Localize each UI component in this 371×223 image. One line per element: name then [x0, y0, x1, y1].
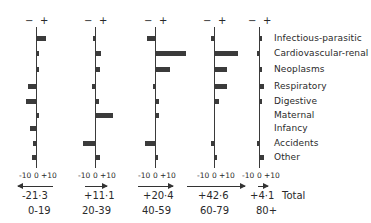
bar-40-59-1	[156, 51, 186, 56]
tick-label-pos10: +10	[100, 172, 116, 180]
bar-20-39-3	[92, 84, 95, 89]
bar-0-19-5	[37, 113, 39, 118]
bar-60-79-2	[215, 67, 227, 72]
bar-20-39-0	[93, 36, 95, 41]
total-change-value: +42·6	[198, 190, 229, 201]
total-change-value: +11·1	[84, 190, 115, 201]
bar-0-19-3	[28, 84, 36, 89]
zero-axis-line	[259, 27, 260, 168]
minus-sign-label: −	[25, 16, 33, 26]
bar-40-59-7	[145, 141, 155, 146]
tick-label-0: 0	[153, 172, 158, 180]
bar-20-39-7	[83, 141, 95, 146]
zero-axis-line	[214, 27, 215, 168]
bar-40-59-5	[156, 113, 159, 118]
category-label: Accidents	[274, 138, 318, 148]
bar-40-59-2	[156, 67, 170, 72]
tick-label-neg10: -10	[242, 172, 254, 180]
bar-40-59-0	[147, 36, 155, 41]
bar-0-19-0	[37, 36, 46, 41]
bar-20-39-4	[96, 99, 99, 104]
age-group-label: 40-59	[142, 205, 171, 216]
bar-40-59-8	[156, 155, 158, 160]
bar-80+-7	[257, 141, 259, 146]
bar-20-39-8	[96, 155, 100, 160]
zero-axis-line	[155, 27, 156, 168]
minus-sign-label: −	[248, 16, 256, 26]
plus-sign-label: +	[40, 16, 48, 26]
tick-label-pos10: +10	[264, 172, 280, 180]
tick-label-pos10: +10	[219, 172, 235, 180]
category-label: Maternal	[274, 110, 314, 120]
tick-label-neg10: -10	[138, 172, 150, 180]
bar-0-19-4	[26, 99, 36, 104]
bar-80+-4	[260, 99, 262, 104]
category-label: Infectious-parasitic	[274, 33, 362, 43]
cause-of-death-change-chart: −+-100+10-21·30-19−+-100+10+11·120-39−+-…	[0, 0, 371, 223]
total-change-arrow	[85, 186, 107, 187]
bar-80+-2	[260, 67, 262, 72]
category-label: Neoplasms	[274, 64, 325, 74]
category-label: Respiratory	[274, 81, 327, 91]
plus-sign-label: +	[263, 16, 271, 26]
zero-axis-line	[36, 27, 37, 168]
bar-80+-0	[260, 36, 262, 41]
total-label: Total	[282, 190, 305, 201]
category-label: Cardiovascular-renal	[274, 48, 368, 58]
total-change-value: -21·3	[22, 190, 48, 201]
bar-60-79-4	[215, 99, 219, 104]
bar-0-19-1	[37, 51, 39, 56]
bar-60-79-7	[211, 141, 214, 146]
total-change-arrow	[18, 186, 53, 187]
minus-sign-label: −	[203, 16, 211, 26]
bar-20-39-2	[96, 67, 100, 72]
total-change-value: +20·4	[143, 190, 174, 201]
bar-0-19-8	[32, 155, 36, 160]
tick-label-neg10: -10	[78, 172, 90, 180]
category-label: Other	[274, 152, 300, 162]
total-change-arrow	[258, 186, 268, 187]
minus-sign-label: −	[84, 16, 92, 26]
bar-60-79-3	[215, 84, 227, 89]
bar-0-19-7	[33, 141, 36, 146]
total-change-arrow	[187, 186, 245, 187]
age-group-label: 0-19	[28, 205, 51, 216]
category-label: Infancy	[274, 123, 308, 133]
age-group-label: 80+	[256, 205, 277, 216]
plus-sign-label: +	[99, 16, 107, 26]
tick-label-0: 0	[34, 172, 39, 180]
plus-sign-label: +	[218, 16, 226, 26]
zero-axis-line	[95, 27, 96, 168]
tick-label-pos10: +10	[41, 172, 57, 180]
bar-80+-3	[260, 84, 264, 89]
bar-60-79-0	[211, 36, 214, 41]
tick-label-neg10: -10	[19, 172, 31, 180]
bar-80+-8	[260, 155, 264, 160]
tick-label-0: 0	[93, 172, 98, 180]
tick-label-0: 0	[212, 172, 217, 180]
bar-60-79-8	[215, 155, 217, 160]
total-change-value: +4·1	[250, 190, 274, 201]
bar-0-19-2	[37, 67, 39, 72]
total-change-arrow	[138, 186, 173, 187]
bar-40-59-4	[156, 99, 159, 104]
tick-label-pos10: +10	[160, 172, 176, 180]
bar-40-59-3	[153, 84, 155, 89]
category-label: Digestive	[274, 96, 317, 106]
tick-label-neg10: -10	[197, 172, 209, 180]
bar-20-39-1	[96, 51, 101, 56]
bar-20-39-5	[96, 113, 113, 118]
minus-sign-label: −	[144, 16, 152, 26]
tick-label-0: 0	[257, 172, 262, 180]
bar-60-79-1	[215, 51, 238, 56]
bar-0-19-6	[30, 126, 37, 131]
plus-sign-label: +	[159, 16, 167, 26]
age-group-label: 20-39	[82, 205, 111, 216]
age-group-label: 60-79	[200, 205, 229, 216]
bar-80+-1	[257, 51, 259, 56]
